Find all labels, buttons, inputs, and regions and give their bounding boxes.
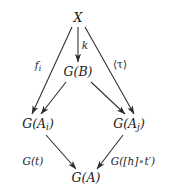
node-g-of-a-j-suffix: ) — [140, 116, 145, 131]
node-g-of-b: G(B) — [64, 66, 93, 79]
edge-label-f-i: fi — [35, 60, 41, 72]
edge-label-g-of-h-compose-t-prime: G([h]∘t′) — [111, 156, 155, 167]
edge-label-g-of-t: G(t) — [23, 156, 44, 167]
edge-label-tau-text: ⟨τ⟩ — [113, 58, 127, 70]
node-g-of-b-label: G(B) — [64, 64, 93, 79]
commutative-diagram: X G(B) G(Ai) G(Aj) G(A) k fi ⟨τ⟩ G(t) G(… — [0, 0, 174, 191]
node-x: X — [74, 12, 83, 25]
node-g-of-a: G(A) — [72, 172, 101, 185]
edge-label-g-of-t-text: G(t) — [23, 155, 44, 167]
node-g-of-a-j: G(Aj) — [113, 118, 145, 132]
edge-label-tau: ⟨τ⟩ — [113, 59, 127, 70]
edge-label-gh-prefix: G([h] — [111, 155, 138, 167]
node-g-of-a-label: G(A) — [72, 170, 101, 185]
node-g-of-a-j-prefix: G(A — [113, 116, 137, 131]
node-g-of-a-i: G(Ai) — [22, 118, 54, 132]
edge-label-k-text: k — [82, 39, 88, 51]
arrow-gai-to-ga — [46, 135, 76, 169]
arrow-gb-to-gaj — [91, 82, 125, 114]
edge-label-gh-close: ) — [151, 155, 155, 167]
node-g-of-a-i-suffix: ) — [49, 116, 54, 131]
node-g-of-a-i-prefix: G(A — [22, 116, 46, 131]
edge-label-k: k — [82, 40, 88, 51]
edge-label-f-i-subscript: i — [39, 64, 41, 73]
node-x-label: X — [74, 10, 83, 25]
